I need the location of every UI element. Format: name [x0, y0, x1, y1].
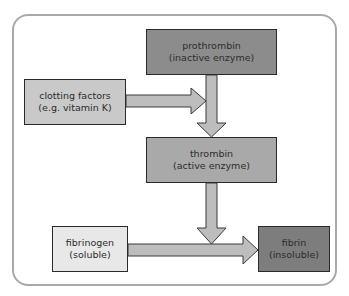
node-sublabel: (insoluble) — [269, 249, 319, 261]
node-sublabel: (e.g. vitamin K) — [38, 102, 111, 114]
node-sublabel: (soluble) — [69, 249, 110, 261]
arrow-fibrinogen-to-fibrin — [128, 236, 258, 264]
fibrin-node: fibrin (insoluble) — [258, 226, 330, 272]
node-label: fibrin — [282, 237, 307, 249]
node-label: prothrombin — [182, 40, 241, 52]
arrow-prothrombin-to-thrombin — [197, 75, 226, 137]
fibrinogen-node: fibrinogen (soluble) — [52, 226, 128, 272]
node-sublabel: (active enzyme) — [173, 160, 250, 172]
thrombin-node: thrombin (active enzyme) — [146, 137, 277, 183]
node-label: thrombin — [190, 148, 233, 160]
node-label: fibrinogen — [66, 237, 114, 249]
clotting-factors-node: clotting factors (e.g. vitamin K) — [24, 79, 126, 125]
arrow-thrombin-to-conversion — [197, 183, 226, 244]
node-label: clotting factors — [39, 90, 111, 102]
prothrombin-node: prothrombin (inactive enzyme) — [146, 29, 277, 75]
node-sublabel: (inactive enzyme) — [169, 52, 255, 64]
arrow-clotting-to-activation — [126, 88, 206, 114]
